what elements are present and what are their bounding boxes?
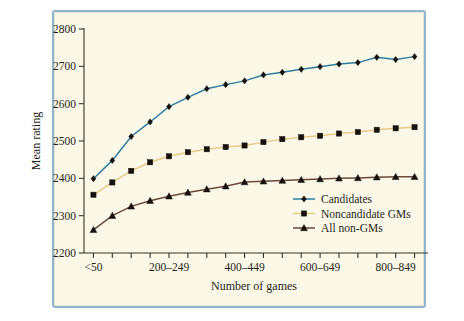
x-tick-label: 600–649: [300, 261, 341, 273]
y-tick-label: 2300: [53, 210, 76, 222]
series-line: [93, 57, 414, 179]
x-tick-label: <50: [84, 261, 102, 273]
data-point: [204, 86, 209, 92]
y-tick-label: 2400: [53, 172, 76, 184]
data-point: [299, 135, 304, 140]
legend-item-1[interactable]: Candidates: [293, 193, 373, 205]
data-point: [337, 61, 342, 67]
data-point: [129, 168, 134, 173]
data-point: [336, 131, 341, 136]
data-point: [318, 64, 323, 70]
data-point: [148, 160, 153, 165]
data-point: [412, 125, 417, 130]
series-line: [93, 127, 414, 195]
data-point: [374, 127, 379, 132]
figure-container: 2200230024002500260027002800<50200–24940…: [0, 0, 464, 321]
y-tick-label: 2800: [53, 23, 76, 35]
x-tick-label: 200–249: [149, 261, 190, 273]
legend-label: Noncandidate GMs: [321, 208, 411, 220]
data-point: [355, 60, 360, 66]
y-tick-label: 2700: [53, 60, 76, 72]
data-point: [412, 54, 417, 60]
data-point: [204, 147, 209, 152]
data-point: [374, 54, 379, 60]
chart-svg: 2200230024002500260027002800<50200–24940…: [0, 0, 464, 321]
data-point: [166, 154, 171, 159]
data-point: [261, 140, 266, 145]
series-2: [91, 125, 417, 198]
data-point: [299, 66, 304, 72]
y-tick-label: 2200: [53, 247, 76, 259]
data-point: [223, 82, 228, 88]
data-point: [318, 133, 323, 138]
data-point: [301, 211, 306, 216]
series-1: [91, 54, 417, 182]
data-point: [223, 144, 228, 149]
data-point: [393, 126, 398, 131]
legend-label: Candidates: [321, 193, 373, 205]
data-point: [185, 94, 190, 100]
data-point: [280, 137, 285, 142]
data-point: [242, 78, 247, 84]
x-tick-label: 800–849: [376, 261, 417, 273]
legend-label: All non-GMs: [321, 222, 383, 234]
data-point: [393, 57, 398, 63]
x-tick-label: 400–449: [224, 261, 265, 273]
data-point: [355, 129, 360, 134]
y-tick-label: 2500: [53, 135, 76, 147]
data-point: [302, 196, 307, 202]
x-axis-title: Number of games: [211, 279, 297, 293]
y-tick-label: 2600: [53, 98, 76, 110]
y-axis-title: Mean rating: [29, 112, 43, 170]
legend-item-3[interactable]: All non-GMs: [293, 222, 383, 234]
data-point: [242, 143, 247, 148]
legend-item-2[interactable]: Noncandidate GMs: [293, 208, 411, 220]
data-point: [185, 150, 190, 155]
data-point: [91, 192, 96, 197]
data-point: [261, 72, 266, 78]
data-point: [110, 180, 115, 185]
data-point: [280, 69, 285, 75]
